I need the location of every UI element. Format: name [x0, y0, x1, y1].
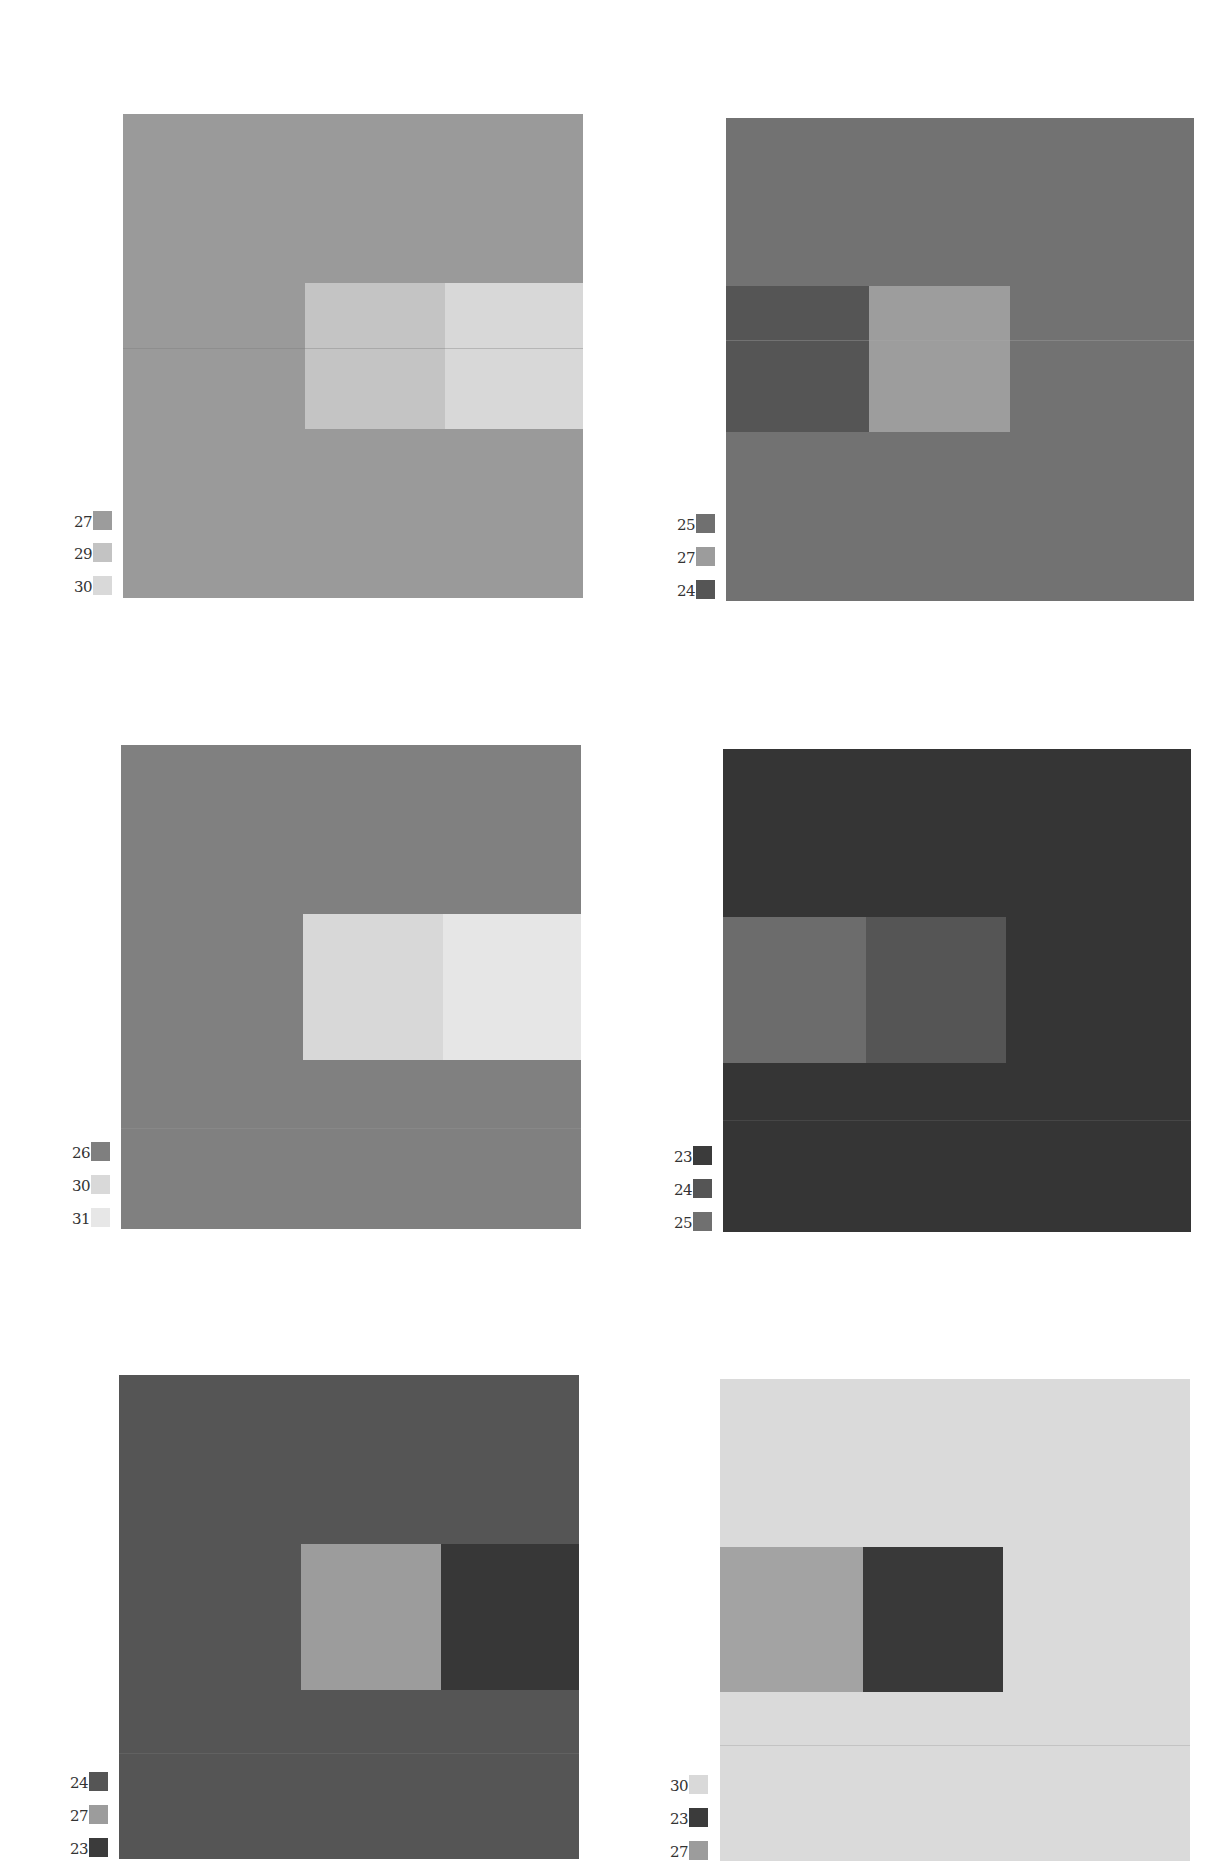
- plate-5-right-block: [441, 1544, 579, 1690]
- legend-row: 23: [70, 1837, 108, 1857]
- legend-swatch: [689, 1775, 708, 1794]
- legend-value: 31: [72, 1212, 90, 1227]
- plate-5-legend: 24 27 23: [48, 1769, 108, 1859]
- plate-1-field: [123, 114, 583, 598]
- legend-swatch: [91, 1142, 110, 1161]
- plate-6-left-block: [720, 1547, 863, 1692]
- plate-5-field: [119, 1375, 579, 1859]
- legend-swatch: [91, 1208, 110, 1227]
- legend-swatch: [696, 547, 715, 566]
- fold-line: [723, 1120, 1191, 1121]
- plate-5-left-block: [301, 1544, 441, 1690]
- legend-value: 27: [670, 1845, 688, 1860]
- fold-line: [720, 1745, 1190, 1746]
- plate-1-left-block: [305, 283, 445, 429]
- plate-2-right-block: [869, 286, 1010, 432]
- plate-4-right-block: [866, 917, 1006, 1063]
- legend-swatch: [89, 1805, 108, 1824]
- legend-value: 26: [72, 1146, 90, 1161]
- plate-1-legend: 27 29 30: [52, 508, 112, 598]
- plate-3-legend: 26 30 31: [50, 1139, 110, 1229]
- legend-swatch: [693, 1146, 712, 1165]
- legend-row: 27: [74, 510, 112, 530]
- legend-swatch: [689, 1841, 708, 1860]
- legend-value: 30: [670, 1779, 688, 1794]
- legend-value: 27: [677, 551, 695, 566]
- legend-value: 25: [677, 518, 695, 533]
- legend-value: 27: [74, 515, 92, 530]
- legend-value: 24: [674, 1183, 692, 1198]
- legend-row: 23: [674, 1145, 712, 1165]
- legend-row: 27: [670, 1840, 708, 1860]
- legend-value: 24: [70, 1776, 88, 1791]
- legend-swatch: [696, 514, 715, 533]
- plate-3-left-block: [303, 914, 443, 1060]
- plate-2-left-block: [726, 286, 869, 432]
- legend-swatch: [93, 576, 112, 595]
- legend-row: 24: [677, 579, 715, 599]
- legend-value: 25: [674, 1216, 692, 1231]
- legend-value: 24: [677, 584, 695, 599]
- fold-line: [119, 1753, 579, 1754]
- legend-row: 30: [72, 1174, 110, 1194]
- legend-row: 23: [670, 1807, 708, 1827]
- legend-row: 29: [74, 542, 112, 562]
- legend-row: 26: [72, 1141, 110, 1161]
- legend-value: 23: [70, 1842, 88, 1857]
- legend-swatch: [693, 1179, 712, 1198]
- legend-value: 29: [74, 547, 92, 562]
- plate-4-left-block: [723, 917, 866, 1063]
- legend-value: 23: [670, 1812, 688, 1827]
- legend-row: 27: [70, 1804, 108, 1824]
- legend-value: 27: [70, 1809, 88, 1824]
- legend-row: 25: [674, 1211, 712, 1231]
- legend-row: 27: [677, 546, 715, 566]
- plate-4-legend: 23 24 25: [652, 1143, 712, 1233]
- plate-1-right-block: [445, 283, 583, 429]
- legend-row: 30: [74, 575, 112, 595]
- legend-value: 23: [674, 1150, 692, 1165]
- plate-6-field: [720, 1379, 1190, 1861]
- plate-3-field: [121, 745, 581, 1229]
- legend-row: 24: [674, 1178, 712, 1198]
- legend-swatch: [91, 1175, 110, 1194]
- plate-6-right-block: [863, 1547, 1003, 1692]
- legend-value: 30: [74, 580, 92, 595]
- fold-line: [121, 1128, 581, 1129]
- legend-swatch: [93, 543, 112, 562]
- plate-2-legend: 25 27 24: [655, 511, 715, 601]
- legend-swatch: [89, 1772, 108, 1791]
- fold-line: [123, 348, 583, 349]
- plate-4-field: [723, 749, 1191, 1232]
- legend-row: 31: [72, 1207, 110, 1227]
- legend-row: 24: [70, 1771, 108, 1791]
- legend-swatch: [696, 580, 715, 599]
- plate-2-field: [726, 118, 1194, 601]
- legend-swatch: [689, 1808, 708, 1827]
- legend-value: 30: [72, 1179, 90, 1194]
- plate-6-legend: 30 23 27: [648, 1772, 708, 1862]
- legend-row: 30: [670, 1774, 708, 1794]
- legend-swatch: [93, 511, 112, 530]
- plate-3-right-block: [443, 914, 581, 1060]
- legend-swatch: [89, 1838, 108, 1857]
- fold-line: [726, 340, 1194, 341]
- legend-row: 25: [677, 513, 715, 533]
- legend-swatch: [693, 1212, 712, 1231]
